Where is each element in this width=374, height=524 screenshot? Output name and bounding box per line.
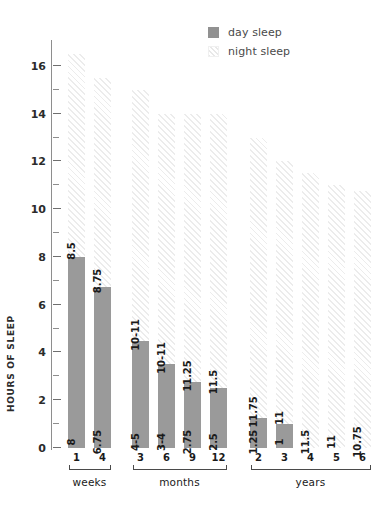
- y-tick-14: [53, 113, 61, 114]
- bar-value-label-night: 8.75: [92, 269, 103, 293]
- bar-value-label-night: 10-11: [156, 343, 167, 374]
- bar-value-label-night: 11.75: [248, 397, 259, 428]
- x-group-name: months: [159, 476, 200, 488]
- bar-value-label-day: 1: [274, 439, 285, 446]
- y-tick-10: [53, 208, 61, 209]
- legend-swatch-day-sleep: [208, 27, 219, 38]
- bar-segment-night-sleep: 11: [276, 161, 293, 424]
- plot-area: 024681012141688.56.758.754-510-113-410-1…: [60, 42, 370, 448]
- y-axis-label-12: 12: [31, 155, 46, 168]
- x-group-bracket: [251, 469, 371, 470]
- y-tick-11: [53, 184, 59, 185]
- x-group-bracket: [69, 469, 111, 470]
- bar-value-label-night: 11.5: [208, 370, 219, 394]
- bar-segment-night-sleep: 10-11: [132, 90, 149, 341]
- y-tick-4: [53, 351, 61, 352]
- y-tick-16: [53, 65, 61, 66]
- x-tick-label: 2: [255, 452, 262, 463]
- bar-segment-night-sleep: 11.5: [302, 173, 319, 448]
- x-tick-label: 6: [359, 452, 366, 463]
- legend-item-day-sleep: day sleep: [208, 24, 290, 40]
- y-tick-7: [53, 280, 59, 281]
- bar-value-label-night: 11: [274, 411, 285, 425]
- y-tick-8: [53, 256, 61, 257]
- x-group-bracket: [133, 469, 227, 470]
- y-tick-12: [53, 160, 61, 161]
- bar-segment-night-sleep: 11.75: [250, 138, 267, 419]
- y-tick-5: [53, 328, 59, 329]
- y-axis-label-2: 2: [38, 394, 46, 407]
- bar-value-label-night: 10-11: [130, 319, 141, 350]
- bar-segment-night-sleep: 11.25: [184, 114, 201, 383]
- bar-segment-night-sleep: 8.75: [94, 78, 111, 287]
- bar-segment-day-sleep: 4-5: [132, 341, 149, 448]
- y-tick-1: [53, 423, 59, 424]
- bar-segment-day-sleep: 2.5: [210, 388, 227, 448]
- y-tick-6: [53, 304, 61, 305]
- bar-segment-day-sleep: 2.75: [184, 382, 201, 448]
- bar-segment-day-sleep: 1: [276, 424, 293, 448]
- y-axis-title: HOURS OF SLEEP: [6, 315, 16, 412]
- y-axis-line: [51, 40, 52, 450]
- x-tick-label: 3: [281, 452, 288, 463]
- x-tick-label: 4: [99, 452, 106, 463]
- y-tick-13: [53, 137, 59, 138]
- bar-segment-night-sleep: 10-11: [158, 114, 175, 365]
- x-tick-label: 4: [307, 452, 314, 463]
- y-axis-label-10: 10: [31, 203, 46, 216]
- y-tick-15: [53, 89, 59, 90]
- x-group-name: weeks: [72, 476, 106, 488]
- bar-segment-day-sleep: 3-4: [158, 364, 175, 448]
- x-tick-label: 3: [137, 452, 144, 463]
- x-tick-label: 9: [189, 452, 196, 463]
- bar-segment-day-sleep: 8: [68, 257, 85, 448]
- x-tick-label: 5: [333, 452, 340, 463]
- y-axis-label-16: 16: [31, 59, 46, 72]
- bar-segment-day-sleep: 6.75: [94, 287, 111, 448]
- bar-value-label-night: 8.5: [66, 242, 77, 259]
- bar-value-label-day: 8: [66, 439, 77, 446]
- y-tick-2: [53, 399, 61, 400]
- sleep-hours-chart: day sleep night sleep HOURS OF SLEEP 024…: [0, 0, 374, 524]
- bar-segment-night-sleep: 10.75: [354, 191, 371, 448]
- x-tick-label: 12: [212, 452, 226, 463]
- y-tick-3: [53, 375, 59, 376]
- y-axis-label-14: 14: [31, 107, 46, 120]
- bar-segment-night-sleep: 8.5: [68, 54, 85, 257]
- bar-segment-night-sleep: 11: [328, 185, 345, 448]
- y-tick-9: [53, 232, 59, 233]
- x-tick-label: 1: [73, 452, 80, 463]
- y-axis-label-0: 0: [38, 442, 46, 455]
- x-tick-label: 6: [163, 452, 170, 463]
- bar-value-label-night: 11.25: [182, 361, 193, 392]
- y-axis-label-4: 4: [38, 346, 46, 359]
- y-axis-label-8: 8: [38, 250, 46, 263]
- x-axis-groups: 14weeks36912months23456years: [60, 448, 370, 518]
- legend-label-day-sleep: day sleep: [228, 26, 282, 39]
- bar-segment-night-sleep: 11.5: [210, 114, 227, 389]
- y-axis-label-6: 6: [38, 298, 46, 311]
- x-group-name: years: [296, 476, 326, 488]
- bar-value-label-night: 11: [326, 435, 337, 449]
